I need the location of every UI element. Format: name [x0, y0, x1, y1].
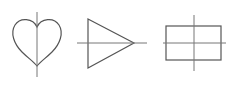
shapes-diagram	[0, 0, 242, 88]
triangle-shape-group	[77, 19, 147, 68]
rectangle-shape-group	[163, 15, 226, 71]
heart-shape-group	[13, 12, 61, 77]
